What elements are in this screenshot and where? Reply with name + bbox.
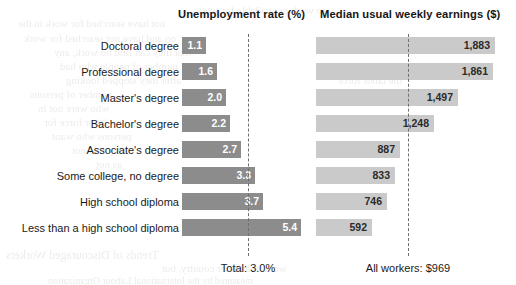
bar-value-median-weekly-earnings: 1,248: [403, 115, 429, 132]
bar-value-median-weekly-earnings: 1,861: [462, 63, 488, 80]
row-label-education-level: Professional degree: [0, 65, 179, 79]
chart-row: Bachelor's degree2.21,248: [0, 114, 516, 140]
bar-unemployment-rate: 1.6: [182, 63, 217, 80]
bar-value-unemployment-rate: 2.0: [207, 89, 222, 106]
bar-value-unemployment-rate: 3.7: [244, 193, 259, 210]
bar-median-weekly-earnings: 1,497: [316, 89, 458, 106]
chart-row: Doctoral degree1.11,883: [0, 36, 516, 62]
chart-row: Less than a high school diploma5.4592: [0, 218, 516, 244]
bar-unemployment-rate: 3.3: [182, 167, 255, 184]
footer-all-workers-earnings: All workers: $969: [366, 262, 450, 274]
bar-value-median-weekly-earnings: 746: [364, 193, 382, 210]
bar-value-unemployment-rate: 2.7: [222, 141, 237, 158]
bar-value-unemployment-rate: 1.6: [198, 63, 213, 80]
row-label-education-level: Less than a high school diploma: [0, 221, 179, 235]
bar-value-unemployment-rate: 2.2: [211, 115, 226, 132]
row-label-education-level: Bachelor's degree: [0, 117, 179, 131]
row-label-education-level: Associate's degree: [0, 143, 179, 157]
column-header-median-earnings: Median usual weekly earnings ($): [320, 8, 500, 20]
bar-value-median-weekly-earnings: 833: [372, 167, 390, 184]
chart-row: Associate's degree2.7887: [0, 140, 516, 166]
row-label-education-level: High school diploma: [0, 195, 179, 209]
footer-total-unemployment: Total: 3.0%: [221, 262, 275, 274]
bar-value-unemployment-rate: 5.4: [282, 219, 297, 236]
chart-row: High school diploma3.7746: [0, 192, 516, 218]
bar-value-median-weekly-earnings: 1,883: [464, 37, 490, 54]
reference-line-all-workers-earnings: [408, 34, 409, 256]
bar-value-median-weekly-earnings: 1,497: [427, 89, 453, 106]
bar-unemployment-rate: 5.4: [182, 219, 301, 236]
bar-unemployment-rate: 1.1: [182, 37, 206, 54]
chart-rows: Doctoral degree1.11,883Professional degr…: [0, 36, 516, 244]
bar-value-unemployment-rate: 1.1: [187, 37, 202, 54]
bar-median-weekly-earnings: 1,883: [316, 37, 495, 54]
bar-unemployment-rate: 3.7: [182, 193, 263, 210]
chart-row: Professional degree1.61,861: [0, 62, 516, 88]
bar-median-weekly-earnings: 1,248: [316, 115, 434, 132]
bar-unemployment-rate: 2.7: [182, 141, 241, 158]
row-label-education-level: Doctoral degree: [0, 39, 179, 53]
education-pays-chart: Unemployment rate (%) Median usual weekl…: [0, 0, 516, 285]
bar-median-weekly-earnings: 887: [316, 141, 400, 158]
bar-unemployment-rate: 2.0: [182, 89, 226, 106]
column-header-unemployment-rate: Unemployment rate (%): [178, 8, 305, 20]
bar-value-median-weekly-earnings: 887: [377, 141, 395, 158]
bar-value-median-weekly-earnings: 592: [349, 219, 367, 236]
reference-line-total-unemployment: [248, 34, 249, 256]
row-label-education-level: Master's degree: [0, 91, 179, 105]
bar-median-weekly-earnings: 746: [316, 193, 387, 210]
bar-median-weekly-earnings: 833: [316, 167, 395, 184]
chart-row: Some college, no degree3.3833: [0, 166, 516, 192]
chart-row: Master's degree2.01,497: [0, 88, 516, 114]
bar-unemployment-rate: 2.2: [182, 115, 230, 132]
bar-median-weekly-earnings: 1,861: [316, 63, 493, 80]
bar-median-weekly-earnings: 592: [316, 219, 372, 236]
row-label-education-level: Some college, no degree: [0, 169, 179, 183]
